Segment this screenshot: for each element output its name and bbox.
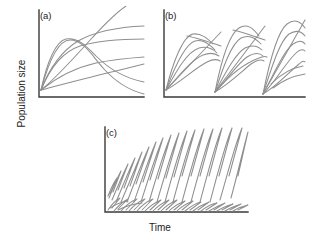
spike-u1 — [108, 178, 117, 196]
bundle-3-curve-2 — [263, 31, 305, 94]
x-axis-label: Time — [120, 222, 200, 233]
panel-a: (a) — [34, 6, 146, 106]
panel-b-axes — [164, 10, 305, 97]
bundle-3-curve-linear — [263, 20, 305, 94]
panel-a-plot — [34, 6, 146, 106]
panel-c-label: (c) — [106, 127, 117, 138]
bundle-2-curve-5 — [215, 60, 264, 92]
spike-u16 — [210, 128, 232, 202]
y-axis-label: Population size — [16, 34, 27, 154]
panel-b: (b) — [159, 6, 307, 106]
figure-population-dynamics: Population size Time (a) (b) — [0, 0, 312, 244]
panel-a-curves — [41, 6, 144, 94]
panel-b-label: (b) — [165, 10, 176, 21]
panel-c-plot — [100, 124, 250, 220]
panel-c-lower-band — [108, 198, 248, 211]
panel-b-bundle-3 — [263, 20, 305, 94]
spike-u18 — [231, 132, 248, 198]
panel-c-upper-band — [108, 128, 248, 202]
panel-b-plot — [159, 6, 307, 106]
spike-u17 — [220, 128, 242, 200]
panel-b-bundle-2 — [215, 26, 267, 92]
panel-c: (c) — [100, 124, 250, 220]
panel-b-bundle-1 — [166, 32, 221, 90]
panel-a-label: (a) — [40, 10, 51, 21]
